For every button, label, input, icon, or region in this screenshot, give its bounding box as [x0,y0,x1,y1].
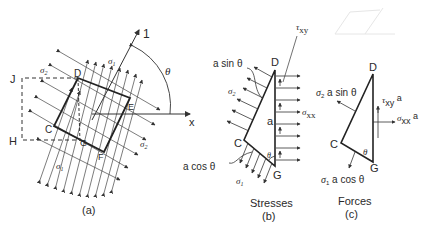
sigma2-arrow-field [32,52,160,180]
tau-leader [283,36,297,82]
caption-a: (a) [82,204,95,216]
sigma2-label-b: σ2 [228,86,235,97]
point-C-label-b: C [234,137,242,149]
point-G-label: G [80,138,87,148]
axis-1-label: 1 [143,27,150,41]
point-C-label-c: C [330,138,338,150]
theta-label-b: θ [267,151,271,160]
theta-label-c: θ [363,147,368,157]
sigma-xx-force-label: σxx a [397,111,418,126]
point-H-label: H [9,135,17,147]
theta-arc [133,46,171,114]
sigma1-bottom-label: σ1 [56,161,63,172]
force2-arrow [337,101,355,111]
sigma2-left-label: σ2 [40,65,47,76]
figure-b-stresses: D C G a θ a sin θ a cos θ σ2 σ1 τxy σxx … [183,22,316,222]
theta-label: θ [165,65,171,77]
a-cos-theta-label: a cos θ [183,161,216,172]
point-F-label: F [98,152,104,162]
sigma1-label-b: σ1 [236,176,243,187]
point-C-label: C [45,124,52,135]
point-G-label-b: G [273,169,282,181]
point-E-label: E [128,102,134,112]
tau-xy-label-b: τxy [296,22,309,35]
force1-arrow [349,152,355,168]
side-a-label: a [267,115,274,127]
figure-a-stress-element: 1 x θ D E F C G J H σ1 σ2 σ2 σ1 (a) [9,27,195,216]
sigma1-face-arrows [240,143,272,183]
force2-label: σ2 a sin θ [316,87,357,99]
stress-element-diagram: 1 x θ D E F C G J H σ1 σ2 σ2 σ1 (a) [0,0,428,234]
caption-forces: Forces [338,195,372,207]
a-sin-theta-label: a sin θ [213,58,243,69]
point-D-label-b: D [271,56,279,68]
force1-label: σ1 a cos θ [321,174,365,186]
point-G-label-c: G [370,162,379,174]
sigma2-face-arrows [227,67,272,131]
axis-x-label: x [189,116,195,128]
faint-sketch [335,8,395,34]
tau-force-label: τxy a [382,93,402,108]
diagram-svg: 1 x θ D E F C G J H σ1 σ2 σ2 σ1 (a) [0,0,428,234]
caption-stresses: Stresses [250,197,293,209]
point-J-label: J [10,73,16,85]
point-D-label-c: D [369,61,377,73]
caption-b: (b) [262,210,275,222]
sigma-xx-face-arrows [276,76,300,160]
sigma2-right-label: σ2 [140,139,147,150]
figure-c-forces: D C G θ σ2 a sin θ σ1 a cos θ τxy a σxx … [316,61,418,220]
sigma-xx-label-b: σxx [302,107,316,120]
point-D-label: D [74,68,81,79]
caption-c: (c) [345,208,358,220]
sigma1-top-label: σ1 [108,56,115,67]
